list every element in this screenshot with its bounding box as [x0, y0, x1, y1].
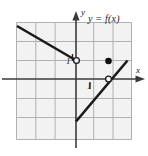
plot-background — [17, 23, 132, 140]
function-graph-figure: y = f(x) y x 1 1 — [0, 0, 148, 156]
x-axis-arrowhead — [136, 75, 146, 82]
function-label: y = f(x) — [88, 14, 120, 24]
y-unit-label: 1 — [66, 57, 71, 66]
x-unit-label: 1 — [87, 82, 92, 91]
graph-canvas — [0, 0, 148, 156]
open-circle-x-axis — [106, 76, 112, 82]
y-axis-label: y — [81, 8, 85, 17]
y-axis-arrowhead — [72, 11, 79, 21]
x-axis-label: x — [136, 66, 140, 75]
open-circle-decreasing-endpoint — [74, 58, 80, 64]
filled-dot — [105, 58, 112, 65]
